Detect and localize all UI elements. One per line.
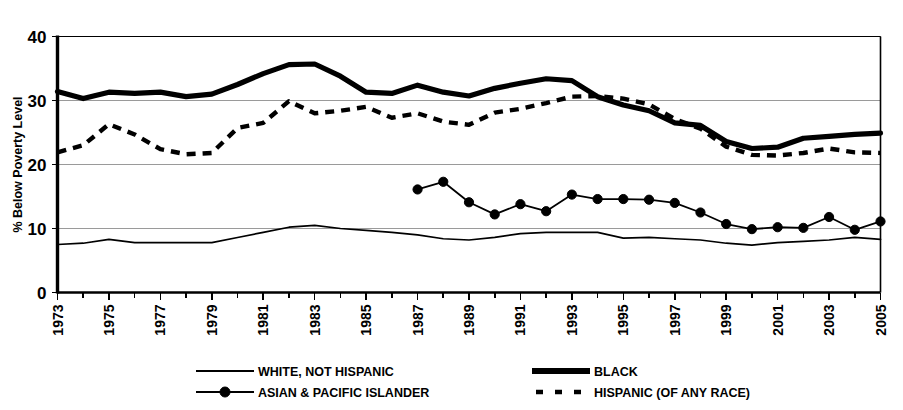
data-point xyxy=(670,198,679,207)
data-point xyxy=(542,207,551,216)
x-tick-label-2001: 2001 xyxy=(770,304,786,335)
chart-legend: WHITE, NOT HISPANICBLACKASIAN & PACIFIC … xyxy=(196,365,750,400)
series-2 xyxy=(413,177,885,234)
data-point xyxy=(464,198,473,207)
data-point xyxy=(567,190,576,199)
series-line-1 xyxy=(58,64,881,148)
legend-swatch-marker xyxy=(220,387,230,397)
data-point xyxy=(747,225,756,234)
data-point xyxy=(413,185,422,194)
legend-entry-3: HISPANIC (OF ANY RACE) xyxy=(536,386,750,400)
data-point xyxy=(516,200,525,209)
poverty-rate-chart-figure: 010203040 197319751977197919811983198519… xyxy=(0,0,903,410)
x-tick-label-1987: 1987 xyxy=(410,304,426,335)
legend-entry-1: BLACK xyxy=(532,365,638,379)
x-tick-label-2005: 2005 xyxy=(873,304,889,335)
x-tick-label-1981: 1981 xyxy=(255,304,271,335)
data-point xyxy=(773,223,782,232)
x-tick-label-1995: 1995 xyxy=(615,304,631,335)
x-tick-label-1975: 1975 xyxy=(101,304,117,335)
x-tick-label-1993: 1993 xyxy=(564,304,580,335)
data-point xyxy=(824,212,833,221)
x-tick-label-2003: 2003 xyxy=(821,304,837,335)
series-1 xyxy=(58,64,881,148)
y-tick-label-0: 0 xyxy=(37,284,46,303)
legend-entry-2: ASIAN & PACIFIC ISLANDER xyxy=(196,386,429,400)
x-tick-label-1999: 1999 xyxy=(718,304,734,335)
data-point xyxy=(593,194,602,203)
cropped-header-text xyxy=(0,0,903,12)
y-tick-label-30: 30 xyxy=(28,92,47,111)
y-axis-title-label: % Below Poverty Level xyxy=(11,96,25,232)
legend-label: ASIAN & PACIFIC ISLANDER xyxy=(258,386,429,400)
data-point xyxy=(696,208,705,217)
x-tick-label-1997: 1997 xyxy=(667,304,683,335)
data-point xyxy=(850,225,859,234)
data-point xyxy=(490,210,499,219)
data-point xyxy=(644,195,653,204)
data-series-group xyxy=(58,64,886,245)
x-tick-label-1991: 1991 xyxy=(512,304,528,335)
x-tick-label-1983: 1983 xyxy=(307,304,323,335)
legend-entry-0: WHITE, NOT HISPANIC xyxy=(196,365,394,379)
legend-label: WHITE, NOT HISPANIC xyxy=(258,365,394,379)
y-tick-label-20: 20 xyxy=(28,156,47,175)
x-tick-label-1973: 1973 xyxy=(50,304,66,335)
legend-label: HISPANIC (OF ANY RACE) xyxy=(594,386,750,400)
data-point xyxy=(722,219,731,228)
data-point xyxy=(619,194,628,203)
data-point xyxy=(799,223,808,232)
x-tick-label-1979: 1979 xyxy=(204,304,220,335)
y-axis-title: % Below Poverty Level xyxy=(11,96,25,232)
chart-canvas: 010203040 197319751977197919811983198519… xyxy=(0,0,903,410)
x-axis-tick-labels: 1973197519771979198119831985198719891991… xyxy=(50,304,889,335)
series-line-2 xyxy=(418,182,881,230)
y-tick-label-10: 10 xyxy=(28,220,47,239)
legend-label: BLACK xyxy=(594,365,638,379)
y-axis-tick-labels: 010203040 xyxy=(28,28,47,303)
x-tick-label-1977: 1977 xyxy=(152,304,168,335)
y-tick-label-40: 40 xyxy=(28,28,47,47)
x-tick-label-1989: 1989 xyxy=(461,304,477,335)
x-tick-label-1985: 1985 xyxy=(358,304,374,335)
data-point xyxy=(439,177,448,186)
